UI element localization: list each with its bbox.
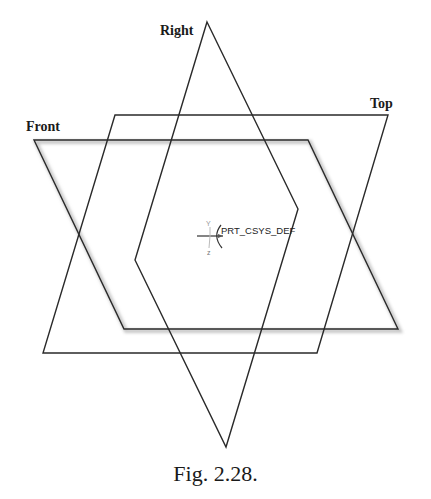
coordinate-system-label: PRT_CSYS_DEF <box>221 226 295 236</box>
top-plane[interactable] <box>43 115 388 353</box>
datum-planes-diagram: Y z <box>0 0 431 499</box>
front-plane-label: Front <box>26 120 60 134</box>
z-axis-line <box>209 236 210 248</box>
figure-caption: Fig. 2.28. <box>0 461 431 487</box>
right-plane-label: Right <box>160 24 193 38</box>
coordinate-system-icon[interactable]: Y z <box>197 220 223 256</box>
z-axis-label: z <box>207 249 211 256</box>
front-plane[interactable] <box>34 140 398 329</box>
top-plane-label: Top <box>370 97 393 111</box>
y-axis-label: Y <box>206 220 211 227</box>
